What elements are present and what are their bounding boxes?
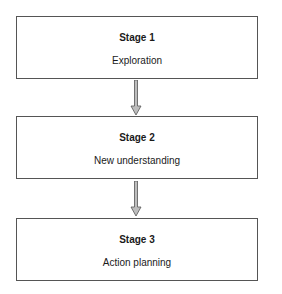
down-arrow-icon [130, 80, 142, 116]
stage-2-box: Stage 2 New understanding [16, 116, 258, 179]
stage-3-title: Stage 3 [17, 234, 257, 245]
stage-2-label: New understanding [17, 155, 257, 166]
stage-1-box: Stage 1 Exploration [16, 16, 258, 79]
stage-2-title: Stage 2 [17, 132, 257, 143]
stage-3-box: Stage 3 Action planning [16, 218, 258, 281]
stage-3-label: Action planning [17, 257, 257, 268]
stage-1-title: Stage 1 [17, 32, 257, 43]
stage-1-label: Exploration [17, 55, 257, 66]
down-arrow-icon [130, 181, 142, 217]
